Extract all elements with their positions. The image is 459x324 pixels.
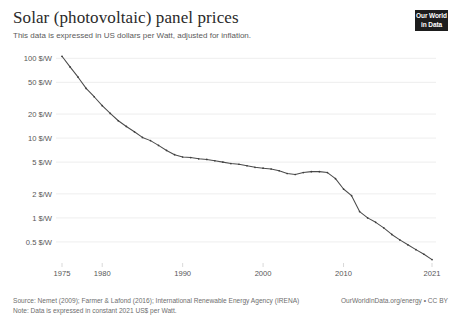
data-point[interactable] xyxy=(93,96,95,98)
data-point[interactable] xyxy=(270,168,272,170)
y-axis-tick-label: 1 $/W xyxy=(32,214,53,223)
x-axis-tick-label: 1975 xyxy=(54,269,71,278)
data-points-group xyxy=(61,55,433,260)
data-point[interactable] xyxy=(246,165,248,167)
chart-footer: Source: Nemet (2009); Farmer & Lafond (2… xyxy=(13,296,448,318)
data-point[interactable] xyxy=(101,105,103,107)
data-point[interactable] xyxy=(134,131,136,133)
logo-line-2: in Data xyxy=(421,21,442,30)
data-point[interactable] xyxy=(343,188,345,190)
separator-dot: • xyxy=(424,297,426,304)
license-link[interactable]: CC BY xyxy=(428,297,448,304)
data-point[interactable] xyxy=(166,150,168,152)
data-point[interactable] xyxy=(399,239,401,241)
data-point[interactable] xyxy=(286,173,288,175)
data-point[interactable] xyxy=(262,167,264,169)
data-point[interactable] xyxy=(302,172,304,174)
x-axis-tick-label: 2010 xyxy=(335,269,352,278)
data-point[interactable] xyxy=(142,137,144,139)
data-point[interactable] xyxy=(407,244,409,246)
data-point[interactable] xyxy=(190,157,192,159)
data-point[interactable] xyxy=(327,172,329,174)
data-point[interactable] xyxy=(351,195,353,197)
y-axis-tick-label: 2 $/W xyxy=(32,190,53,199)
data-point[interactable] xyxy=(174,154,176,156)
y-axis-tick-label: 5 $/W xyxy=(32,158,53,167)
data-point[interactable] xyxy=(415,249,417,251)
chart-header: Solar (photovoltaic) panel prices This d… xyxy=(13,8,446,42)
data-point[interactable] xyxy=(278,170,280,172)
data-point[interactable] xyxy=(238,163,240,165)
data-point[interactable] xyxy=(359,211,361,213)
data-point[interactable] xyxy=(214,160,216,162)
plot-area: 0.5 $/W1 $/W2 $/W5 $/W10 $/W20 $/W50 $/W… xyxy=(0,44,459,290)
our-world-in-data-logo[interactable]: Our World in Data xyxy=(415,10,448,31)
data-point[interactable] xyxy=(383,227,385,229)
data-point[interactable] xyxy=(319,171,321,173)
data-point[interactable] xyxy=(367,217,369,219)
x-axis-tick-label: 2000 xyxy=(255,269,272,278)
data-point[interactable] xyxy=(150,140,152,142)
page-title: Solar (photovoltaic) panel prices xyxy=(13,8,446,28)
chart-subtitle: This data is expressed in US dollars per… xyxy=(13,30,446,41)
footer-left: Source: Nemet (2009); Farmer & Lafond (2… xyxy=(13,296,299,315)
data-point[interactable] xyxy=(182,156,184,158)
chart-card: Solar (photovoltaic) panel prices This d… xyxy=(0,0,459,324)
y-axis-tick-label: 0.5 $/W xyxy=(26,238,53,247)
data-point[interactable] xyxy=(206,159,208,161)
attribution-link[interactable]: OurWorldInData.org/energy xyxy=(341,297,422,304)
data-point[interactable] xyxy=(117,120,119,122)
data-point[interactable] xyxy=(126,126,128,128)
y-axis-tick-label: 20 $/W xyxy=(28,110,53,119)
data-point[interactable] xyxy=(230,163,232,165)
x-axis-tick-label: 1990 xyxy=(174,269,191,278)
line-chart-svg: 0.5 $/W1 $/W2 $/W5 $/W10 $/W20 $/W50 $/W… xyxy=(0,44,459,290)
footer-right: OurWorldInData.org/energy • CC BY xyxy=(341,296,448,306)
data-point[interactable] xyxy=(158,145,160,147)
y-axis-tick-label: 10 $/W xyxy=(28,134,53,143)
y-axis-tick-label: 100 $/W xyxy=(24,54,53,63)
x-axis-tick-labels: 197519801990200020102021 xyxy=(54,263,441,278)
data-series-group xyxy=(61,55,433,260)
data-point[interactable] xyxy=(335,178,337,180)
data-point[interactable] xyxy=(222,161,224,163)
data-point[interactable] xyxy=(77,76,79,78)
data-point[interactable] xyxy=(254,167,256,169)
y-axis-tick-label: 50 $/W xyxy=(28,78,53,87)
data-point[interactable] xyxy=(311,171,313,173)
data-point[interactable] xyxy=(85,88,87,90)
y-axis-tick-labels: 0.5 $/W1 $/W2 $/W5 $/W10 $/W20 $/W50 $/W… xyxy=(24,54,53,247)
data-point[interactable] xyxy=(69,66,71,68)
data-point[interactable] xyxy=(423,253,425,255)
data-point[interactable] xyxy=(391,234,393,236)
note-text: Note: Data is expressed in constant 2021… xyxy=(13,306,299,316)
source-text: Source: Nemet (2009); Farmer & Lafond (2… xyxy=(13,296,299,306)
data-point[interactable] xyxy=(431,259,433,261)
data-point[interactable] xyxy=(294,174,296,176)
data-point[interactable] xyxy=(375,221,377,223)
solar-price-line xyxy=(62,56,432,259)
x-axis-tick-label: 2021 xyxy=(424,269,441,278)
data-point[interactable] xyxy=(61,55,63,57)
logo-line-1: Our World xyxy=(416,12,447,21)
data-point[interactable] xyxy=(109,113,111,115)
x-axis-tick-label: 1980 xyxy=(94,269,111,278)
data-point[interactable] xyxy=(198,158,200,160)
gridlines-group xyxy=(56,58,436,242)
